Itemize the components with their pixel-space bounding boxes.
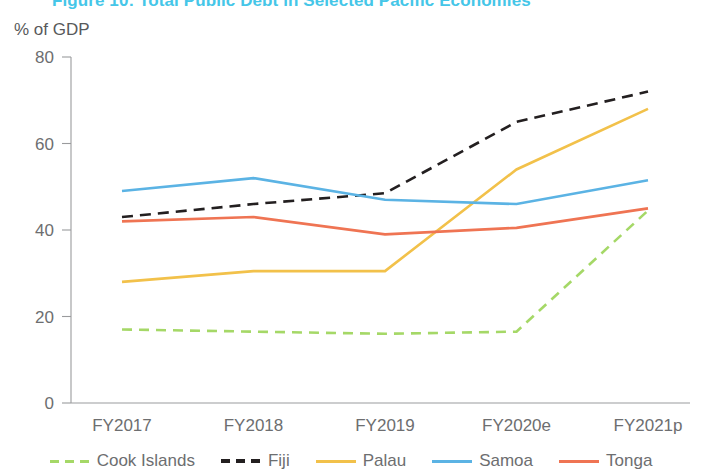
legend-swatch-icon xyxy=(50,460,90,463)
chart-legend: Cook IslandsFijiPalauSamoaTonga xyxy=(0,446,702,476)
legend-item-fiji[interactable]: Fiji xyxy=(221,451,290,471)
x-tick-label: FY2017 xyxy=(92,416,152,435)
legend-swatch-icon xyxy=(221,459,261,463)
chart-series-lines xyxy=(122,92,648,334)
x-tick-label: FY2018 xyxy=(224,416,284,435)
series-line-fiji xyxy=(122,92,648,217)
chart-axes xyxy=(62,57,690,403)
figure-container: Figure 10: Total Public Debt in Selected… xyxy=(0,0,702,476)
legend-item-cook-islands[interactable]: Cook Islands xyxy=(50,451,195,471)
legend-swatch-icon xyxy=(559,460,599,463)
x-tick-label: FY2020e xyxy=(482,416,551,435)
chart-tick-labels: 020406080FY2017FY2018FY2019FY2020eFY2021… xyxy=(35,48,682,435)
legend-item-palau[interactable]: Palau xyxy=(316,451,406,471)
legend-label: Samoa xyxy=(479,451,533,471)
y-tick-label: 80 xyxy=(35,48,54,67)
y-tick-label: 40 xyxy=(35,221,54,240)
line-chart-plot: 020406080FY2017FY2018FY2019FY2020eFY2021… xyxy=(0,0,702,446)
series-line-tonga xyxy=(122,208,648,234)
legend-item-tonga[interactable]: Tonga xyxy=(559,451,652,471)
legend-item-samoa[interactable]: Samoa xyxy=(432,451,533,471)
y-tick-label: 0 xyxy=(45,394,54,413)
y-tick-label: 60 xyxy=(35,135,54,154)
legend-swatch-icon xyxy=(316,460,356,463)
x-tick-label: FY2021p xyxy=(614,416,683,435)
legend-label: Fiji xyxy=(268,451,290,471)
series-line-samoa xyxy=(122,178,648,204)
legend-label: Palau xyxy=(363,451,406,471)
legend-swatch-icon xyxy=(432,460,472,463)
x-tick-label: FY2019 xyxy=(355,416,415,435)
y-tick-label: 20 xyxy=(35,308,54,327)
legend-label: Tonga xyxy=(606,451,652,471)
legend-label: Cook Islands xyxy=(97,451,195,471)
